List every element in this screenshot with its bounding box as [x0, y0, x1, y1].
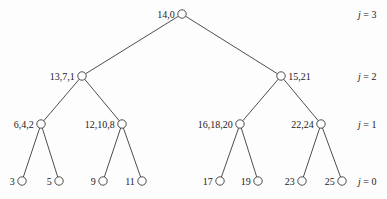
- tree-edge: [303, 128, 319, 177]
- tree-edge: [86, 16, 179, 74]
- tree-node: [178, 10, 186, 18]
- node-label: 3: [10, 176, 15, 187]
- level-value: = 2: [361, 71, 377, 82]
- tree-node: [298, 177, 306, 185]
- tree-edge: [44, 79, 80, 121]
- tree-node: [99, 177, 107, 185]
- tree-edge: [284, 79, 319, 121]
- tree-node: [236, 120, 244, 128]
- tree-edge: [243, 79, 279, 121]
- node-label: 25: [325, 176, 335, 187]
- tree-node: [338, 177, 346, 185]
- tree-diagram: 14,013,7,115,216,4,212,10,816,18,2022,24…: [0, 0, 387, 199]
- tree-edge: [186, 16, 278, 74]
- tree-node: [254, 177, 262, 185]
- tree-node: [55, 177, 63, 185]
- level-value: = 1: [361, 119, 377, 130]
- tree-node: [78, 72, 86, 80]
- tree-node: [277, 72, 285, 80]
- node-label: 14,0: [157, 9, 175, 20]
- tree-node: [138, 177, 146, 185]
- level-label: j = 1: [356, 119, 376, 130]
- tree-edge: [221, 128, 238, 177]
- tree-node: [37, 120, 45, 128]
- level-value: = 0: [361, 176, 377, 187]
- node-label: 13,7,1: [50, 71, 75, 82]
- node-label: 9: [91, 176, 96, 187]
- tree-node: [216, 177, 224, 185]
- node-label: 16,18,20: [198, 119, 233, 130]
- tree-edge: [42, 128, 57, 177]
- tree-edge: [123, 128, 140, 177]
- tree-svg: 14,013,7,115,216,4,212,10,816,18,2022,24…: [0, 0, 387, 199]
- tree-edge: [241, 128, 256, 177]
- tree-node: [118, 120, 126, 128]
- tree-edge: [104, 128, 120, 177]
- node-label: 19: [241, 176, 251, 187]
- level-label: j = 2: [356, 71, 376, 82]
- node-label: 15,21: [288, 71, 311, 82]
- tree-edge: [23, 128, 39, 177]
- tree-edge: [85, 79, 120, 121]
- node-label: 5: [47, 176, 52, 187]
- node-label: 22,24: [291, 119, 314, 130]
- tree-node: [317, 120, 325, 128]
- node-label: 23: [285, 176, 295, 187]
- node-label: 12,10,8: [85, 119, 115, 130]
- node-label: 17: [203, 176, 213, 187]
- level-label: j = 0: [356, 176, 376, 187]
- tree-edge: [322, 128, 340, 177]
- level-value: = 3: [361, 9, 377, 20]
- tree-node: [18, 177, 26, 185]
- level-label: j = 3: [356, 9, 376, 20]
- node-label: 6,4,2: [14, 119, 34, 130]
- node-label: 11: [125, 176, 135, 187]
